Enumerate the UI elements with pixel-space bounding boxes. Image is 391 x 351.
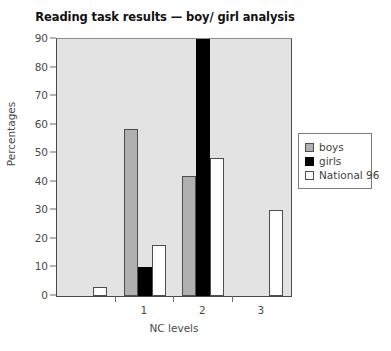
y-tick-label: 10 <box>35 260 48 272</box>
legend-item-girls: girls <box>305 154 366 168</box>
x-tick-label: 1 <box>140 304 147 316</box>
chart-figure: Reading task results — boy/ girl analysi… <box>0 0 391 351</box>
bar-group <box>116 39 175 296</box>
bars-layer <box>57 39 291 296</box>
bar-group <box>174 39 233 296</box>
legend-item-national-96: National 96 <box>305 168 366 182</box>
bar-group <box>57 39 116 296</box>
legend-label-girls: girls <box>319 156 341 167</box>
bar-boys <box>124 129 138 296</box>
x-tick-label: 2 <box>199 304 206 316</box>
legend-item-boys: boys <box>305 140 366 154</box>
bar-national-96 <box>269 210 283 296</box>
x-tick-mark <box>232 296 233 302</box>
y-tick-label: 30 <box>35 203 48 215</box>
legend-swatch-national-96-icon <box>305 171 314 180</box>
plot-area <box>56 38 292 297</box>
y-tick-label: 60 <box>35 118 48 130</box>
chart-legend: boys girls National 96 <box>298 133 372 189</box>
x-tick-mark <box>115 296 116 302</box>
bar-national-96 <box>93 287 107 296</box>
legend-swatch-boys-icon <box>305 143 314 152</box>
y-tick-label: 70 <box>35 89 48 101</box>
y-tick-label: 0 <box>41 289 48 301</box>
y-tick-label: 90 <box>35 32 48 44</box>
bar-group <box>233 39 292 296</box>
y-tick-label: 50 <box>35 146 48 158</box>
bar-girls <box>138 267 152 296</box>
y-tick-label: 20 <box>35 232 48 244</box>
x-tick-label: 3 <box>257 304 264 316</box>
bar-national-96 <box>210 158 224 296</box>
bar-boys <box>182 176 196 296</box>
y-tick-label: 40 <box>35 175 48 187</box>
chart-title: Reading task results — boy/ girl analysi… <box>0 10 330 24</box>
y-tick-label: 80 <box>35 61 48 73</box>
x-tick-mark <box>173 296 174 302</box>
legend-label-boys: boys <box>319 142 344 153</box>
legend-label-national-96: National 96 <box>319 170 379 181</box>
bar-national-96 <box>152 245 166 296</box>
legend-swatch-girls-icon <box>305 157 314 166</box>
bar-girls <box>196 39 210 296</box>
x-axis-label: NC levels <box>56 322 292 334</box>
y-axis-label: Percentages <box>5 79 17 189</box>
